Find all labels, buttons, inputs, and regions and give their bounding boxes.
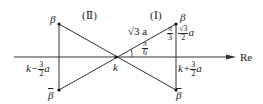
angle-pi3-label: π3 <box>167 25 173 42</box>
k-label: k <box>113 62 118 73</box>
beta-bar-right-label: β <box>176 90 181 101</box>
right-x-label: k+32a <box>178 61 202 78</box>
height-label: √32a <box>178 25 194 42</box>
diagram-canvas <box>0 0 263 104</box>
region-ii-label: (Ⅱ) <box>82 10 97 21</box>
beta-left-label: β <box>50 14 55 25</box>
re-axis-label: Re <box>240 52 252 63</box>
axis-arrow-icon <box>226 55 236 60</box>
region-i-label: (Ⅰ) <box>150 10 162 21</box>
hypotenuse-label: √3 a <box>128 26 147 37</box>
angle-pi6-label: π6 <box>142 40 148 57</box>
beta-bar-left-label: β <box>48 90 53 101</box>
left-x-label: k−32a <box>26 61 50 78</box>
beta-right-label: β <box>180 12 185 23</box>
